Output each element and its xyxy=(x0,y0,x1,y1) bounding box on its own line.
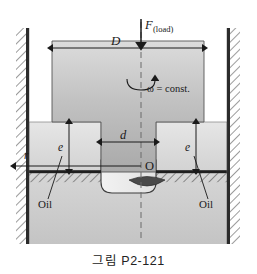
label-e-right: e xyxy=(185,141,190,153)
ground-hatch-left xyxy=(29,173,101,182)
ground-line-left xyxy=(29,170,101,173)
label-e-left: e xyxy=(58,141,63,153)
shoulder-right xyxy=(156,122,227,172)
label-omega: ω = const. xyxy=(147,83,190,94)
ground-line-right xyxy=(156,170,227,173)
label-D: D xyxy=(110,33,121,48)
thrust-bearing-diagram: D F (load) ω = const. d e e O r Oil Oil xyxy=(0,0,257,274)
label-r: r xyxy=(24,149,29,161)
left-wall xyxy=(16,28,29,244)
label-F: F xyxy=(144,18,153,32)
left-wall-bar xyxy=(26,28,29,244)
figure-caption: 그림 P2-121 xyxy=(0,250,257,269)
label-oil-right: Oil xyxy=(199,198,213,210)
right-wall xyxy=(227,28,240,244)
label-d: d xyxy=(120,128,127,142)
ground-hatch-right xyxy=(156,173,227,182)
label-O: O xyxy=(145,159,154,173)
right-wall-bar xyxy=(227,28,230,244)
label-F-subscript: (load) xyxy=(153,24,173,34)
shoulder-left xyxy=(29,122,101,172)
label-oil-left: Oil xyxy=(38,198,52,210)
figure-container: D F (load) ω = const. d e e O r Oil Oil … xyxy=(0,0,257,274)
